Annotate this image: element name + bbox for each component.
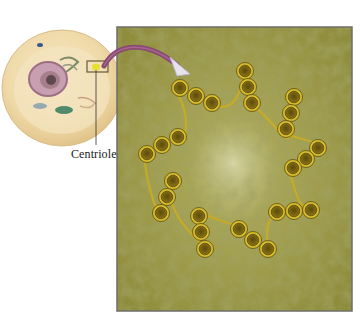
cell-illustration: [2, 30, 122, 146]
centriole-marker: [92, 64, 100, 71]
diagram-svg: [0, 0, 362, 319]
centriole-label: Centriole: [71, 147, 117, 162]
centriole-diagram: Centriole: [0, 0, 362, 319]
triplet-7: [269, 202, 320, 221]
mitochondrion: [55, 106, 73, 114]
nucleus: [29, 62, 67, 96]
